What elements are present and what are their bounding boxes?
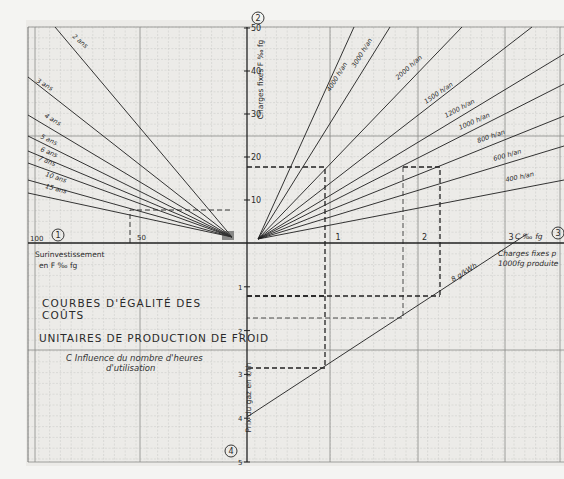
right-tick-label: 1 [336,233,341,242]
upper-axis-label: Charges fixes F ‰ fg [256,20,265,140]
left-axis-label: Surinvestissement en F ‰ fg [35,249,104,271]
right-axis-label-line-2: 1000fg produite [498,259,558,269]
subtitle-line-2: d'utilisation [106,363,240,373]
subtitle-line-1: C Influence du nombre d'heures [66,353,240,363]
nomogram-sheet: 1020304050123451231005012342 ans3 ans4 a… [0,0,564,479]
quadrant-marker-number: 1 [56,231,61,240]
lower-tick-label: 5 [238,459,242,467]
lower-axis-label: Prix du gaz en c/th [244,338,253,458]
left-axis-label-line-2: en F ‰ fg [39,260,104,271]
lower-tick-label: 4 [238,415,243,423]
convergence-mark [222,231,234,240]
right-axis-unit: C ‰ fg [515,232,543,241]
title-block: COURBES D'ÉGALITÉ DES COÛTS UNITAIRES DE… [30,297,240,373]
quadrant-marker-number: 3 [556,229,561,238]
right-axis-label: Charges fixes p 1000fg produite [498,249,558,269]
right-axis-label-line-1: Charges fixes p [498,249,558,259]
quadrant-marker-number: 4 [229,447,234,456]
upper-tick-label: 20 [251,153,261,162]
upper-tick-label: 10 [251,196,261,205]
title-line-2: UNITAIRES DE PRODUCTION DE FROID [39,332,240,344]
lower-tick-label: 1 [238,284,242,292]
left-tick-label: 50 [137,234,146,242]
left-tick-label: 100 [30,235,43,243]
left-axis-label-line-1: Surinvestissement [35,249,104,260]
right-tick-label: 3 [509,233,514,242]
right-tick-label: 2 [422,233,427,242]
nomogram-chart: 1020304050123451231005012342 ans3 ans4 a… [0,0,564,479]
title-line-1: COURBES D'ÉGALITÉ DES COÛTS [42,297,240,321]
